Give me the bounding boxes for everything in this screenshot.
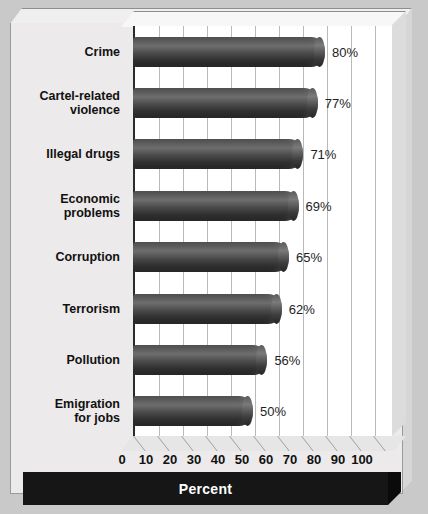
axis-tick: [133, 436, 146, 451]
bar: [133, 294, 282, 324]
x-tick-label: 90: [331, 452, 345, 467]
bar: [133, 396, 253, 426]
axis-tick: [181, 436, 194, 451]
axis-tick: [325, 436, 338, 451]
axis-tick: [205, 436, 218, 451]
bar-value-label: 69%: [306, 198, 332, 213]
bar-value-label: 50%: [260, 404, 286, 419]
bar: [133, 345, 267, 375]
x-tick-label: 20: [163, 452, 177, 467]
bar-row: 80%: [0, 37, 428, 67]
x-tick-label: 60: [259, 452, 273, 467]
bar-value-label: 71%: [310, 147, 336, 162]
bar: [133, 139, 303, 169]
bar-row: 62%: [0, 294, 428, 324]
x-tick-label: 30: [187, 452, 201, 467]
x-tick-label: 80: [307, 452, 321, 467]
x-tick-label: 0: [118, 452, 125, 467]
bar-value-label: 62%: [289, 301, 315, 316]
x-tick-label: 100: [351, 452, 373, 467]
axis-tick: [157, 436, 170, 451]
bar-value-label: 65%: [296, 250, 322, 265]
bar: [133, 242, 289, 272]
bar-row: 77%: [0, 88, 428, 118]
axis-tick: [253, 436, 266, 451]
bar-row: 69%: [0, 191, 428, 221]
axis-tick: [301, 436, 314, 451]
bar-row: 71%: [0, 139, 428, 169]
x-tick-label: 50: [235, 452, 249, 467]
x-tick-label: 70: [283, 452, 297, 467]
axis-tick: [277, 436, 290, 451]
x-tick-label: 40: [211, 452, 225, 467]
x-axis-title: Percent: [23, 472, 388, 505]
axis-floor: [121, 436, 406, 452]
axis-tick: [349, 436, 362, 451]
axis-tick: [229, 436, 242, 451]
bar-row: 65%: [0, 242, 428, 272]
x-tick-label: 10: [139, 452, 153, 467]
bar-value-label: 80%: [332, 44, 358, 59]
bar-value-label: 56%: [274, 352, 300, 367]
bar: [133, 37, 325, 67]
axis-tick: [373, 436, 386, 451]
axis-title-band-side: [388, 472, 401, 505]
bar-row: 56%: [0, 345, 428, 375]
chart-figure: CrimeCartel-relatedviolenceIllegal drugs…: [0, 0, 428, 514]
bar-value-label: 77%: [325, 96, 351, 111]
bar-row: 50%: [0, 396, 428, 426]
bar: [133, 88, 318, 118]
bar: [133, 191, 299, 221]
